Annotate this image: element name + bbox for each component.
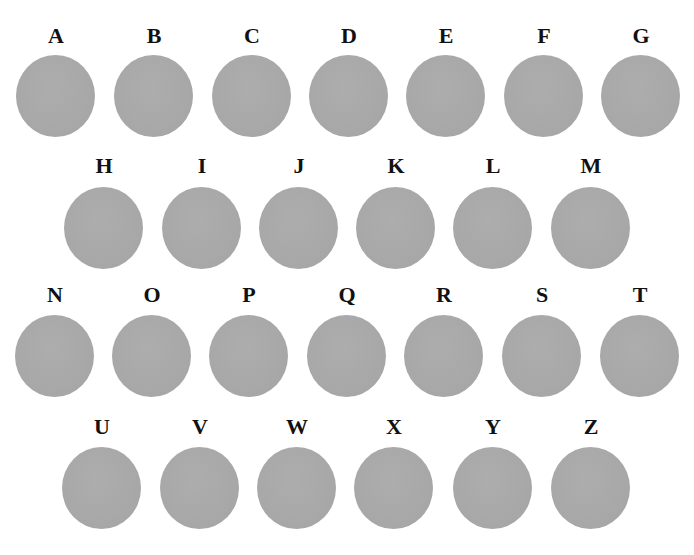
disc-label: S	[502, 283, 582, 307]
disc-label: Z	[551, 415, 631, 439]
disc-label: A	[16, 24, 96, 48]
gray-disc	[15, 315, 94, 397]
disc-label: H	[64, 154, 144, 178]
gray-disc	[551, 187, 630, 269]
gray-disc	[502, 315, 581, 397]
gray-disc	[209, 315, 288, 397]
disc-label: O	[112, 283, 192, 307]
disc-label: V	[160, 415, 240, 439]
gray-disc	[309, 55, 388, 137]
gray-disc	[406, 55, 485, 137]
disc-label: N	[15, 283, 95, 307]
disc-label: D	[309, 24, 389, 48]
gray-disc	[112, 315, 191, 397]
disc-label: K	[356, 154, 436, 178]
disc-label: W	[257, 415, 337, 439]
disc-label: Y	[453, 415, 533, 439]
disc-label: F	[504, 24, 584, 48]
gray-disc	[453, 447, 532, 529]
disc-label: U	[62, 415, 142, 439]
gray-disc	[257, 447, 336, 529]
disc-label: G	[601, 24, 681, 48]
gray-disc	[504, 55, 583, 137]
gray-disc	[453, 187, 532, 269]
gray-disc	[356, 187, 435, 269]
gray-disc	[601, 55, 680, 137]
gray-disc	[212, 55, 291, 137]
disc-label: J	[259, 154, 339, 178]
disc-label: B	[114, 24, 194, 48]
gray-disc	[404, 315, 483, 397]
gray-disc	[307, 315, 386, 397]
disc-label: M	[551, 154, 631, 178]
gray-disc	[16, 55, 95, 137]
disc-label: C	[212, 24, 292, 48]
gray-disc	[160, 447, 239, 529]
gray-disc	[162, 187, 241, 269]
gray-disc	[600, 315, 679, 397]
gray-disc	[354, 447, 433, 529]
disc-label: X	[354, 415, 434, 439]
gray-disc	[259, 187, 338, 269]
disc-label: E	[406, 24, 486, 48]
gray-disc	[114, 55, 193, 137]
disc-label: T	[600, 283, 680, 307]
disc-label: P	[209, 283, 289, 307]
disc-label: L	[453, 154, 533, 178]
gray-disc	[62, 447, 141, 529]
gray-disc	[551, 447, 630, 529]
disc-label: R	[404, 283, 484, 307]
disc-label: I	[162, 154, 242, 178]
gray-disc	[64, 187, 143, 269]
disc-label: Q	[307, 283, 387, 307]
